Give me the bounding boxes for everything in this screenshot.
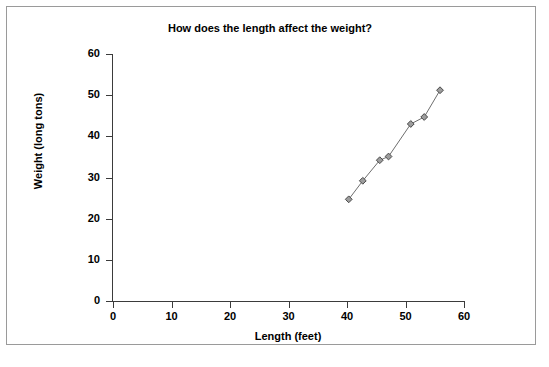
chart-figure: How does the length affect the weight? W… — [0, 0, 549, 367]
data-point-marker — [407, 121, 414, 128]
series-group — [345, 87, 443, 203]
data-point-marker — [437, 87, 444, 94]
data-series-layer — [0, 0, 549, 367]
data-point-marker — [385, 153, 392, 160]
data-point-marker — [421, 114, 428, 121]
